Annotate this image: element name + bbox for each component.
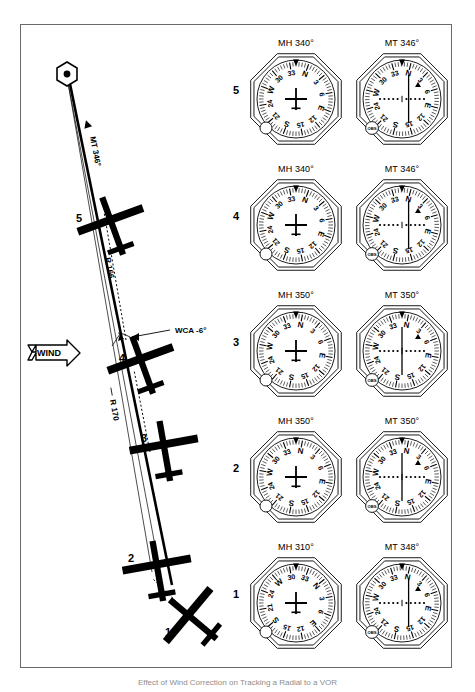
heading-indicator-5[interactable]: MH 340° N36E1215S2124W3033 (246, 38, 346, 149)
panel-row-index-5: 5 (228, 84, 244, 96)
radial-170-label: R 170 (108, 399, 121, 422)
radial-166-label: R 166 (103, 257, 116, 280)
heading-indicator-title-5: MH 340° (246, 38, 346, 48)
svg-text:24: 24 (266, 99, 274, 108)
radial-166-label-group: R 166 (103, 257, 116, 280)
svg-text:15: 15 (296, 247, 305, 255)
instrument-panel-grid: 5 MH 340° N36E1215S2124W3033 MT 346° N36… (228, 38, 460, 662)
svg-text:33: 33 (287, 195, 296, 203)
mt-course-arrow (83, 119, 92, 128)
wind-label: WIND (37, 348, 61, 358)
svg-text:24: 24 (266, 225, 274, 234)
panel-row-index-2: 2 (228, 462, 244, 474)
svg-text:OBS: OBS (367, 378, 376, 383)
vor-indicator-title-4: MT 346° (352, 164, 452, 174)
aircraft-symbol-4 (100, 325, 186, 406)
heading-indicator-face-4[interactable]: N36E1215S2124W3033 (246, 175, 346, 275)
aircraft-label-3: 3 (141, 432, 147, 444)
mt-course-label-group: MT 346° (88, 136, 103, 167)
panel-row-3: 3 MH 350° N36E1215S2124W3033 MT 350° N36… (228, 290, 460, 408)
panel-row-index-3: 3 (228, 336, 244, 348)
mt-course-label: MT 346° (88, 136, 103, 167)
figure-caption: Effect of Wind Correction on Tracking a … (0, 678, 475, 687)
vor-indicator-face-3[interactable]: N36E1215S2124W3033OBS (352, 301, 452, 401)
svg-text:15: 15 (296, 121, 305, 129)
vor-indicator-title-5: MT 346° (352, 38, 452, 48)
heading-indicator-face-3[interactable]: N36E1215S2124W3033 (246, 301, 346, 401)
vor-indicator-face-4[interactable]: N36E1215S2124W3033OBS (352, 175, 452, 275)
vor-indicator-title-1: MT 348° (352, 542, 452, 552)
heading-indicator-title-3: MH 350° (246, 290, 346, 300)
aircraft-label-5: 5 (76, 212, 82, 224)
aircraft-symbol-3 (125, 415, 204, 487)
aircraft-label-4: 4 (119, 352, 126, 364)
vor-indicator-title-3: MT 350° (352, 290, 452, 300)
svg-text:OBS: OBS (367, 504, 376, 509)
vor-indicator-4[interactable]: MT 346° N36E1215S2124W3033OBS (352, 164, 452, 275)
vor-station-icon (57, 62, 77, 86)
radial-lines (67, 77, 160, 572)
radial-170-label-group: R 170 (106, 387, 121, 422)
aircraft-symbol-5 (70, 186, 156, 267)
heading-indicator-3[interactable]: MH 350° N36E1215S2124W3033 (246, 290, 346, 401)
heading-indicator-face-2[interactable]: N36E1215S2124W3033 (246, 427, 346, 527)
vor-indicator-3[interactable]: MT 350° N36E1215S2124W3033OBS (352, 290, 452, 401)
vor-indicator-5[interactable]: MT 346° N36E1215S2124W3033OBS (352, 38, 452, 149)
navigation-figure: WCA -6° MT 346° R 166 R 170 WIND 5 (0, 0, 475, 692)
vor-indicator-face-5[interactable]: N36E1215S2124W3033OBS (352, 49, 452, 149)
heading-indicator-1[interactable]: MH 310° N36E1215S2124W3033 (246, 542, 346, 653)
vor-indicator-face-1[interactable]: N36E1215S2124W3033OBS (352, 553, 452, 653)
svg-text:OBS: OBS (367, 126, 376, 131)
vor-indicator-1[interactable]: MT 348° N36E1215S2124W3033OBS (352, 542, 452, 653)
heading-indicator-title-4: MH 340° (246, 164, 346, 174)
desired-track-line (69, 79, 172, 585)
heading-indicator-face-1[interactable]: N36E1215S2124W3033 (246, 553, 346, 653)
vor-indicator-face-2[interactable]: N36E1215S2124W3033OBS (352, 427, 452, 527)
svg-text:12: 12 (296, 625, 305, 633)
svg-text:OBS: OBS (367, 630, 376, 635)
panel-row-4: 4 MH 340° N36E1215S2124W3033 MT 346° N36… (228, 164, 460, 282)
aircraft-label-1: 1 (165, 626, 171, 638)
panel-row-1: 1 MH 310° N36E1215S2124W3033 MT 348° N36… (228, 542, 460, 660)
heading-indicator-face-5[interactable]: N36E1215S2124W3033 (246, 49, 346, 149)
svg-text:OBS: OBS (367, 252, 376, 257)
panel-row-index-4: 4 (228, 210, 244, 222)
panel-row-5: 5 MH 340° N36E1215S2124W3033 MT 346° N36… (228, 38, 460, 156)
svg-text:30: 30 (287, 573, 296, 581)
vor-indicator-title-2: MT 350° (352, 416, 452, 426)
wca-label: WCA -6° (175, 326, 206, 335)
heading-indicator-2[interactable]: MH 350° N36E1215S2124W3033 (246, 416, 346, 527)
heading-indicator-title-1: MH 310° (246, 542, 346, 552)
heading-indicator-4[interactable]: MH 340° N36E1215S2124W3033 (246, 164, 346, 275)
aircraft-label-2: 2 (128, 552, 134, 564)
heading-indicator-title-2: MH 350° (246, 416, 346, 426)
panel-row-2: 2 MH 350° N36E1215S2124W3033 MT 350° N36… (228, 416, 460, 534)
vor-indicator-2[interactable]: MT 350° N36E1215S2124W3033OBS (352, 416, 452, 527)
svg-text:21: 21 (266, 603, 274, 612)
aircraft-symbol-2 (118, 535, 197, 607)
svg-text:33: 33 (287, 69, 296, 77)
panel-row-index-1: 1 (228, 588, 244, 600)
